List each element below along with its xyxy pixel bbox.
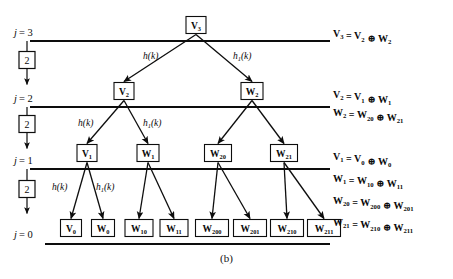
downsampler-box[interactable]: 2	[19, 116, 35, 133]
figure-caption: (b)	[0, 252, 453, 264]
downsampler-factor-label: 2	[25, 119, 30, 130]
level-label-j0: j= 0	[12, 229, 33, 240]
equation-eq-v3: V3 = V2 ⊕ W2	[333, 28, 392, 45]
tree-nodes: V3V2W2V1W1W20W21V0W0W10W11W200W201W210W2…	[61, 17, 341, 237]
subspace-equations: V3 = V2 ⊕ W2V2 = V1 ⊕ W1W2 = W20 ⊕ W21V1…	[333, 28, 413, 234]
filter-label-f2: h1(k)	[233, 51, 252, 62]
downsampler-factor-label: 2	[25, 55, 30, 66]
node-W2[interactable]: W2	[241, 83, 263, 100]
equation-eq-v1: V1 = V0 ⊕ W0	[333, 151, 392, 168]
tree-edge-W20-to-W201	[218, 163, 250, 219]
tree-edge-W1-to-W11	[148, 163, 174, 219]
tree-edge-V1-to-V0	[71, 163, 87, 219]
node-W1[interactable]: W1	[137, 145, 159, 162]
downsampler-ds3: 2	[19, 169, 35, 214]
node-W201[interactable]: W201	[234, 220, 267, 237]
node-W0[interactable]: W0	[92, 220, 115, 237]
node-W210[interactable]: W210	[271, 220, 304, 237]
node-W11[interactable]: W11	[160, 220, 188, 237]
downsampler-box[interactable]: 2	[19, 181, 35, 198]
downsampler-ds1: 2	[19, 41, 35, 85]
tree-edge-W1-to-W10	[139, 163, 148, 219]
downsampler-chain: 222	[19, 41, 35, 214]
level-rails	[30, 41, 330, 244]
level-label-j3: j= 3	[12, 27, 33, 38]
node-V2[interactable]: V2	[114, 83, 134, 100]
downsampler-factor-label: 2	[25, 184, 30, 195]
node-V3[interactable]: V3	[186, 17, 206, 34]
equation-eq-w1: W1 = W10 ⊕ W11	[333, 173, 403, 190]
decomposition-tree-diagram: 222 V3V2W2V1W1W20W21V0W0W10W11W200W201W2…	[0, 0, 453, 279]
level-label-j2: j= 2	[12, 93, 33, 104]
filter-label-f5: h(k)	[52, 182, 67, 193]
filter-label-f6: h1(k)	[96, 182, 115, 193]
level-label-j1: j= 1	[12, 155, 33, 166]
node-V1[interactable]: V1	[77, 145, 97, 162]
equation-eq-w20: W20 = W200 ⊕ W201	[333, 195, 413, 212]
filter-label-f4: h1(k)	[143, 118, 162, 129]
filter-label-f3: h(k)	[78, 118, 93, 129]
tree-edge-W20-to-W200	[212, 163, 218, 219]
node-V0[interactable]: V0	[61, 220, 82, 237]
node-W10[interactable]: W10	[125, 220, 153, 237]
equation-eq-v2: V2 = V1 ⊕ W1	[333, 89, 391, 106]
node-W21[interactable]: W21	[271, 145, 298, 162]
equation-eq-w2: W2 = W20 ⊕ W21	[333, 107, 403, 124]
node-W200[interactable]: W200	[196, 220, 229, 237]
equation-eq-w21: W21 = W210 ⊕ W211	[333, 217, 413, 234]
downsampler-box[interactable]: 2	[19, 52, 35, 69]
tree-edge-W21-to-W211	[284, 163, 324, 219]
node-W20[interactable]: W20	[205, 145, 232, 162]
tree-edge-W21-to-W210	[284, 163, 287, 219]
downsampler-ds2: 2	[19, 107, 35, 149]
figure-wavelet-packet-tree: 222 V3V2W2V1W1W20W21V0W0W10W11W200W201W2…	[0, 0, 453, 279]
filter-label-f1: h(k)	[143, 51, 158, 62]
